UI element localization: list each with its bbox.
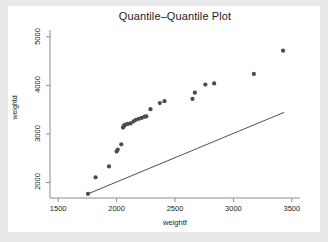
axes-lines xyxy=(50,30,300,198)
x-tick-label: 1500 xyxy=(40,204,76,213)
scatter-point xyxy=(116,148,120,152)
scatter-point xyxy=(162,99,166,103)
scatter-point xyxy=(212,81,216,85)
x-tick-label: 2500 xyxy=(157,204,193,213)
x-tick-label: 2000 xyxy=(99,204,135,213)
scatter-point xyxy=(281,49,285,53)
scatter-point xyxy=(107,164,111,168)
y-tick-label: 3000 xyxy=(33,118,42,148)
scatter-point xyxy=(193,91,197,95)
x-tick-label: 3500 xyxy=(274,204,310,213)
figure-container: Quantile–Quantile Plot weightd weightf 2… xyxy=(0,0,328,242)
scatter-point xyxy=(93,175,97,179)
scatter-point xyxy=(252,72,256,76)
y-axis-label: weightd xyxy=(11,78,18,138)
x-tick-label: 3000 xyxy=(215,204,251,213)
x-axis-label: weightf xyxy=(50,218,300,227)
axis-ticks xyxy=(46,37,292,202)
y-tick-label: 5000 xyxy=(33,21,42,51)
y-tick-label: 2000 xyxy=(33,167,42,197)
scatter-point xyxy=(190,97,194,101)
scatter-point xyxy=(86,192,90,196)
scatter-point xyxy=(203,83,207,87)
y-tick-label: 4000 xyxy=(33,70,42,100)
scatter-point xyxy=(148,107,152,111)
scatter-point xyxy=(158,101,162,105)
scatter-point xyxy=(119,142,123,146)
data-points xyxy=(86,49,285,196)
scatter-point xyxy=(144,114,148,118)
